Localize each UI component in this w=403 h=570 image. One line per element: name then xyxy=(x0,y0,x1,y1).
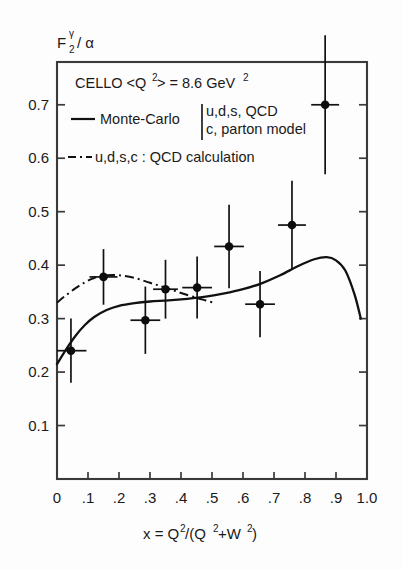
y-tick-label: 0.7 xyxy=(28,96,49,113)
y-axis-title-base: F xyxy=(57,34,66,51)
data-point xyxy=(153,260,178,319)
data-marker xyxy=(225,242,234,251)
y-axis-title-tail: / α xyxy=(77,34,94,51)
x-tick-label: 0 xyxy=(53,489,61,506)
experiment-value: > = 8.6 GeV xyxy=(157,75,236,91)
y-axis-title-subscript: 2 xyxy=(69,44,75,55)
data-marker xyxy=(161,285,170,294)
experiment-label: CELLO <Q xyxy=(75,75,146,91)
y-tick-label: 0.2 xyxy=(28,363,49,380)
y-tick-label: 0.3 xyxy=(28,310,49,327)
x-tick-label: .7 xyxy=(268,489,281,506)
x-tick-label: .5 xyxy=(206,489,219,506)
legend-item-qcd: u,d,s,c : QCD calculation xyxy=(68,149,255,165)
data-point xyxy=(278,181,306,270)
x-axis-title-text: x = Q xyxy=(143,525,179,542)
x-axis-title-text-3: +W xyxy=(218,525,242,542)
legend-label-monte-carlo: Monte-Carlo xyxy=(100,111,180,127)
y-tick-label: 0.1 xyxy=(28,417,49,434)
x-tick-label: .4 xyxy=(175,489,188,506)
x-axis-title-text-2: /(Q xyxy=(185,525,206,542)
legend-detail-monte-carlo-2: c, parton model xyxy=(206,121,306,137)
data-marker xyxy=(99,273,108,282)
experiment-superscript-2: 2 xyxy=(243,72,249,83)
data-point xyxy=(182,257,212,319)
legend-label-qcd: u,d,s,c : QCD calculation xyxy=(95,149,255,165)
x-axis-tick-labels: 0.1.2.3.4.5.6.7.8.91.0 xyxy=(53,489,378,506)
x-tick-label: .6 xyxy=(237,489,250,506)
data-point xyxy=(130,287,160,354)
y-axis-title: F 2 γ / α xyxy=(57,28,94,55)
y-tick-label: 0.6 xyxy=(28,149,49,166)
y-axis-tick-labels: 0.10.20.30.40.50.60.7 xyxy=(28,96,49,434)
experiment-annotation: CELLO <Q 2 > = 8.6 GeV 2 xyxy=(75,72,249,91)
data-point xyxy=(311,35,339,174)
x-tick-label: .3 xyxy=(144,489,157,506)
chart-svg: F 2 γ / α 0.10.20.30.40.50.60.7 0.1.2.3.… xyxy=(0,0,403,570)
figure-container: F 2 γ / α 0.10.20.30.40.50.60.7 0.1.2.3.… xyxy=(0,0,403,570)
x-tick-label: .1 xyxy=(82,489,95,506)
x-tick-label: 1.0 xyxy=(357,489,378,506)
legend-item-monte-carlo: Monte-Carlo u,d,s, QCD c, parton model xyxy=(71,103,306,140)
data-marker xyxy=(67,346,76,355)
data-marker xyxy=(193,283,202,292)
data-marker xyxy=(256,300,265,309)
y-axis-title-superscript: γ xyxy=(69,28,74,39)
x-tick-label: .9 xyxy=(330,489,343,506)
x-tick-label: .8 xyxy=(299,489,312,506)
x-axis-title: x = Q 2 /(Q 2 +W 2 ) xyxy=(143,523,257,542)
x-axis-title-text-4: ) xyxy=(252,525,257,542)
data-point xyxy=(214,205,244,288)
data-marker xyxy=(141,316,150,325)
legend-detail-monte-carlo-1: u,d,s, QCD xyxy=(206,103,278,119)
y-tick-label: 0.4 xyxy=(28,256,49,273)
data-marker xyxy=(321,100,330,109)
data-marker xyxy=(288,221,297,230)
y-tick-label: 0.5 xyxy=(28,203,49,220)
data-point xyxy=(90,249,118,305)
x-tick-label: .2 xyxy=(113,489,126,506)
